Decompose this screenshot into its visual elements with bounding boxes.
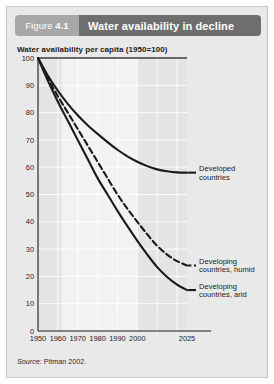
y-tick-label: 90 — [26, 81, 34, 90]
series-annotation-label-0: countries — [199, 173, 230, 182]
source-value: Pitman 2002. — [42, 357, 86, 366]
y-tick-label: 20 — [26, 272, 34, 281]
y-tick-label: 30 — [26, 245, 34, 254]
x-tick-label: 2000 — [129, 334, 145, 343]
y-tick-label: 80 — [26, 108, 34, 117]
x-tick-label: 1960 — [50, 334, 66, 343]
x-tick-label: 1980 — [89, 334, 105, 343]
series-annotations: DevelopedcountriesDevelopingcountries, h… — [188, 164, 255, 299]
figure-card: Figure 4.1 Water availability in decline… — [6, 6, 268, 378]
x-tick-label: 2025 — [179, 334, 195, 343]
x-tick-label: 1990 — [109, 334, 125, 343]
x-axis-tick-labels: 1950196019701980199020002025 — [30, 334, 195, 343]
y-tick-label: 10 — [26, 299, 34, 308]
y-axis-tick-labels: 0102030405060708090100 — [22, 54, 34, 336]
chart-svg: 0102030405060708090100 19501960197019801… — [7, 7, 269, 379]
source-note: Source: Pitman 2002. — [17, 357, 86, 366]
series-annotation-label-2: countries, arid — [199, 290, 247, 299]
chart-plot: 0102030405060708090100 19501960197019801… — [7, 7, 269, 379]
y-tick-label: 100 — [22, 54, 34, 63]
source-label: Source: — [17, 357, 42, 366]
y-tick-label: 50 — [26, 190, 34, 199]
y-tick-label: 70 — [26, 136, 34, 145]
x-tick-label: 1950 — [30, 334, 46, 343]
x-tick-label: 1970 — [70, 334, 86, 343]
y-tick-label: 40 — [26, 217, 34, 226]
series-annotation-label-1: countries, humid — [199, 265, 255, 274]
y-tick-label: 60 — [26, 163, 34, 172]
